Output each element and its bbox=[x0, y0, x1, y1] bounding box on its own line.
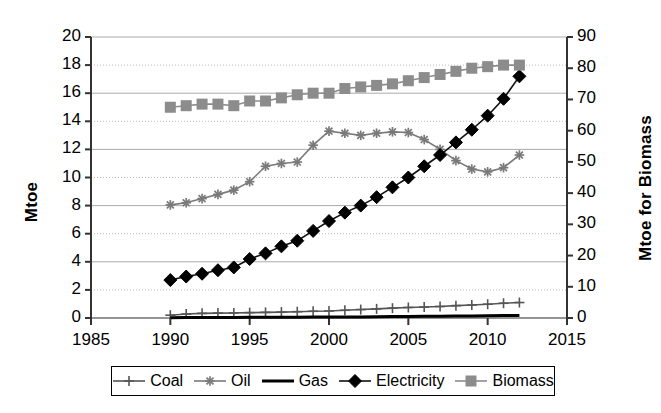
data-point-marker bbox=[402, 171, 415, 184]
data-point-marker bbox=[387, 78, 398, 89]
data-point-marker bbox=[324, 88, 335, 99]
legend-item-coal[interactable]: Coal bbox=[107, 372, 188, 390]
data-point-marker bbox=[338, 206, 351, 219]
data-point-marker bbox=[339, 83, 350, 94]
data-point-marker bbox=[450, 66, 461, 77]
y-axis-left-tick-label: 10 bbox=[37, 167, 81, 187]
y-axis-right-tick-label: 10 bbox=[577, 276, 625, 296]
series-biomass bbox=[165, 60, 525, 113]
legend-label: Gas bbox=[299, 372, 328, 390]
data-point-marker bbox=[275, 240, 288, 253]
data-point-marker bbox=[482, 61, 493, 72]
data-point-marker bbox=[435, 69, 446, 80]
y-axis-right-tick-label: 30 bbox=[577, 213, 625, 233]
y-axis-right-tick-label: 80 bbox=[577, 57, 625, 77]
data-point-marker bbox=[466, 376, 477, 387]
data-point-marker bbox=[164, 274, 177, 287]
data-point-marker bbox=[418, 160, 431, 173]
y-axis-left-tick-label: 18 bbox=[37, 54, 81, 74]
y-axis-left-tick-label: 6 bbox=[37, 223, 81, 243]
series-line bbox=[170, 315, 519, 317]
legend-item-biomass[interactable]: Biomass bbox=[449, 372, 558, 390]
legend-label: Oil bbox=[231, 372, 251, 390]
legend-item-electricity[interactable]: Electricity bbox=[333, 372, 449, 390]
x-axis-tick-label: 2005 bbox=[373, 330, 443, 350]
chart-legend: CoalOilGasElectricityBiomass bbox=[111, 366, 555, 396]
x-axis-tick-label: 2010 bbox=[453, 330, 523, 350]
data-point-marker bbox=[323, 215, 336, 228]
diamond-marker-icon bbox=[338, 373, 372, 389]
data-point-marker bbox=[212, 99, 223, 110]
data-point-marker bbox=[419, 72, 430, 83]
square-marker-icon bbox=[454, 373, 488, 389]
y-axis-right-tick-label: 60 bbox=[577, 120, 625, 140]
data-point-marker bbox=[291, 234, 304, 247]
legend-label: Biomass bbox=[492, 372, 553, 390]
data-point-marker bbox=[354, 199, 367, 212]
x-axis-tick-label: 1990 bbox=[135, 330, 205, 350]
x-axis-tick-label: 2015 bbox=[532, 330, 602, 350]
data-point-marker bbox=[349, 375, 362, 388]
data-point-marker bbox=[386, 181, 399, 194]
y-axis-left-tick-label: 20 bbox=[37, 26, 81, 46]
data-point-marker bbox=[211, 264, 224, 277]
data-point-marker bbox=[260, 96, 271, 107]
chart-container: Mtoe Mtoe for Biomass 024681012141618200… bbox=[0, 0, 661, 413]
y-axis-right-tick-label: 70 bbox=[577, 88, 625, 108]
data-point-marker bbox=[197, 99, 208, 110]
y-axis-right-tick-label: 0 bbox=[577, 307, 625, 327]
x-axis-tick-label: 1995 bbox=[215, 330, 285, 350]
data-point-marker bbox=[244, 96, 255, 107]
line-icon bbox=[261, 373, 295, 389]
data-point-marker bbox=[498, 60, 509, 71]
data-point-marker bbox=[403, 75, 414, 86]
data-point-marker bbox=[228, 100, 239, 111]
y-axis-left-tick-label: 2 bbox=[37, 279, 81, 299]
data-point-marker bbox=[165, 102, 176, 113]
y-axis-left-tick-label: 16 bbox=[37, 82, 81, 102]
data-point-marker bbox=[307, 224, 320, 237]
data-point-marker bbox=[276, 92, 287, 103]
data-point-marker bbox=[196, 267, 209, 280]
data-point-marker bbox=[370, 191, 383, 204]
data-point-marker bbox=[371, 80, 382, 91]
y-axis-right-tick-label: 50 bbox=[577, 151, 625, 171]
y-axis-right-tick-label: 90 bbox=[577, 26, 625, 46]
data-point-marker bbox=[308, 88, 319, 99]
y-axis-left-tick-label: 8 bbox=[37, 195, 81, 215]
series-oil bbox=[166, 126, 525, 209]
y-axis-right-tick-label: 40 bbox=[577, 182, 625, 202]
legend-label: Coal bbox=[150, 372, 183, 390]
data-point-marker bbox=[259, 247, 272, 260]
data-point-marker bbox=[514, 60, 525, 71]
series-gas bbox=[170, 315, 519, 317]
data-point-marker bbox=[227, 261, 240, 274]
legend-item-gas[interactable]: Gas bbox=[256, 372, 333, 390]
data-point-marker bbox=[466, 63, 477, 74]
data-point-marker bbox=[180, 270, 193, 283]
y-axis-left-tick-label: 0 bbox=[37, 307, 81, 327]
y-axis-left-tick-label: 14 bbox=[37, 110, 81, 130]
y-axis-left-tick-label: 12 bbox=[37, 138, 81, 158]
x-axis-tick-label: 2000 bbox=[294, 330, 364, 350]
data-point-marker bbox=[292, 89, 303, 100]
data-point-marker bbox=[355, 81, 366, 92]
plus-marker-icon bbox=[112, 373, 146, 389]
data-point-marker bbox=[513, 70, 526, 83]
data-point-marker bbox=[243, 252, 256, 265]
data-point-marker bbox=[181, 100, 192, 111]
y-axis-left-tick-label: 4 bbox=[37, 251, 81, 271]
legend-label: Electricity bbox=[376, 372, 444, 390]
x-axis-tick-label: 1985 bbox=[56, 330, 126, 350]
legend-item-oil[interactable]: Oil bbox=[188, 372, 256, 390]
plot-area bbox=[0, 0, 661, 413]
y-axis-right-tick-label: 20 bbox=[577, 245, 625, 265]
star-marker-icon bbox=[193, 373, 227, 389]
